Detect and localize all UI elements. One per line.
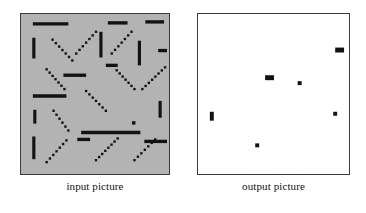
input-segment-bead <box>51 38 53 40</box>
input-segment-bead <box>98 156 100 158</box>
input-segment-bead <box>141 88 143 90</box>
input-segment-bead <box>127 34 129 36</box>
input-segment-bead <box>161 69 163 71</box>
input-segment-bead <box>130 31 132 33</box>
input-segment-bead <box>107 147 109 149</box>
input-segment-bead <box>154 75 156 77</box>
input-segment-bead <box>111 52 113 54</box>
input-segment-bead <box>101 106 103 108</box>
input-segment-bead <box>55 42 57 44</box>
input-segment-bead <box>121 75 123 77</box>
input-segment-bead <box>114 49 116 51</box>
output-detection-marker <box>333 112 337 116</box>
input-segment-bead <box>157 72 159 74</box>
input-segment-bead <box>92 34 94 36</box>
input-segment-bead <box>105 110 107 112</box>
input-segment-bead <box>71 59 73 61</box>
input-segment-bead <box>164 66 166 68</box>
input-segment-bead <box>45 68 47 70</box>
input-segment-bead <box>78 49 80 51</box>
input-segment-bead <box>52 154 54 156</box>
input-segment-bead <box>45 161 47 163</box>
input-segment-bead <box>75 52 77 54</box>
input-segment-point <box>132 121 135 124</box>
input-segment-bead <box>144 85 146 87</box>
input-segment-bead <box>88 38 90 40</box>
input-segment-bead <box>118 72 120 74</box>
input-segment-bead <box>113 140 115 142</box>
input-segment-bead <box>120 41 122 43</box>
input-segment-bead <box>49 157 51 159</box>
input-segment-bead <box>133 88 135 90</box>
input-picture-panel <box>20 13 170 175</box>
input-segment-bead <box>59 146 61 148</box>
input-segment-bead <box>95 100 97 102</box>
input-segment-bead <box>85 90 87 92</box>
input-picture-plot-area <box>21 14 169 174</box>
input-segment-bead <box>151 142 153 144</box>
input-segment-bead <box>65 139 67 141</box>
input-segment-bead <box>60 85 62 87</box>
input-segment-bead <box>98 103 100 105</box>
input-segment-bead <box>88 93 90 95</box>
input-segment-bead <box>85 41 87 43</box>
input-segment-bead <box>52 110 54 112</box>
input-segment-bead <box>58 118 60 120</box>
input-segment-bead <box>95 159 97 161</box>
input-segment-bead <box>116 69 118 71</box>
input-segment-bead <box>124 78 126 80</box>
input-segment-bead <box>147 145 149 147</box>
input-segment-bead <box>65 52 67 54</box>
input-segment-bead <box>151 79 153 81</box>
input-segment-bead <box>82 45 84 47</box>
input-segment-bead <box>127 82 129 84</box>
input-segment-bead <box>57 81 59 83</box>
input-segment-bead <box>51 75 53 77</box>
figure-container: input picture output picture <box>0 0 366 213</box>
input-segment-bead <box>61 121 63 123</box>
output-detection-marker <box>255 143 259 147</box>
output-detection-marker <box>298 81 302 85</box>
input-segment-bead <box>58 45 60 47</box>
output-detection-marker <box>265 75 274 80</box>
input-picture-caption: input picture <box>20 180 170 192</box>
input-segment-bead <box>133 159 135 161</box>
input-segment-bead <box>55 150 57 152</box>
output-picture-caption: output picture <box>197 180 350 192</box>
input-segment-bead <box>62 143 64 145</box>
output-picture-plot-area <box>198 14 349 174</box>
input-segment-bead <box>117 45 119 47</box>
input-segment-bead <box>64 125 66 127</box>
input-segment-bead <box>117 137 119 139</box>
input-segment-bead <box>63 88 65 90</box>
input-segment-bead <box>104 150 106 152</box>
input-segment-bead <box>48 71 50 73</box>
input-segment-bead <box>110 143 112 145</box>
input-segment-bead <box>92 96 94 98</box>
output-detection-marker <box>210 112 214 121</box>
input-segment-bead <box>95 31 97 33</box>
input-segment-bead <box>130 85 132 87</box>
input-segment-bead <box>154 138 156 140</box>
input-segment-bead <box>55 114 57 116</box>
input-segment-bead <box>140 152 142 154</box>
input-segment-bead <box>54 78 56 80</box>
input-segment-bead <box>137 156 139 158</box>
input-segment-bead <box>67 129 69 131</box>
output-detection-marker <box>335 48 344 53</box>
input-segment-bead <box>124 38 126 40</box>
output-picture-panel <box>197 13 350 175</box>
input-segment-bead <box>148 82 150 84</box>
input-segment-bead <box>101 153 103 155</box>
input-segment-bead <box>144 149 146 151</box>
input-segment-bead <box>68 56 70 58</box>
input-segment-bead <box>61 49 63 51</box>
